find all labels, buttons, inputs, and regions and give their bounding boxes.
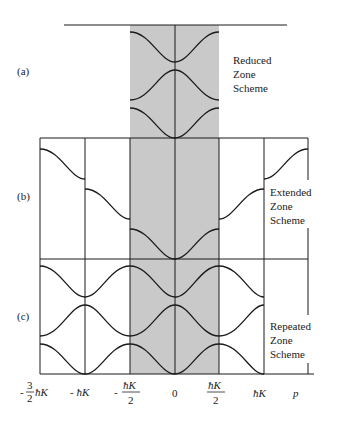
panel-c-scheme-line2: Zone [270,334,293,346]
panel-c-scheme-line1: Repeated [270,320,311,332]
tick-den: 2 [213,394,219,406]
panel-a-scheme-line1: Reduced [233,54,272,66]
x-axis-labels: - 3 2 ħK - ħK - ħK 2 0 ħK 2 ħK p [20,379,299,406]
panel-a-scheme-line2: Zone [233,68,256,80]
band-structure-diagram: (a) (b) (c) Reduced Zone Scheme Extended… [0,0,337,425]
panel-b-scheme-line1: Extended [270,186,312,198]
tick-den: 2 [128,394,134,406]
tick-hk: ħK [253,387,267,399]
panel-c-tag: (c) [17,310,30,323]
panel-b-scheme-line2: Zone [270,200,293,212]
tick-zero: 0 [172,387,178,399]
panel-b-tag: (b) [17,190,30,203]
panel-a-tag: (a) [17,65,30,78]
tick-num: ħK [123,379,137,391]
tick-sign: - [114,386,118,398]
tick-sign: - [20,386,24,398]
panel-c-scheme-line3: Scheme [270,348,305,360]
axis-label-p: p [292,387,299,399]
panel-b-scheme-line3: Scheme [270,214,305,226]
panel-a-scheme-line3: Scheme [233,82,268,94]
tick-sym: ħK [35,386,49,398]
tick-neg-hk: - ħK [70,386,90,398]
tick-den: 2 [27,392,33,404]
tick-num: ħK [208,379,222,391]
tick-num: 3 [27,379,33,391]
